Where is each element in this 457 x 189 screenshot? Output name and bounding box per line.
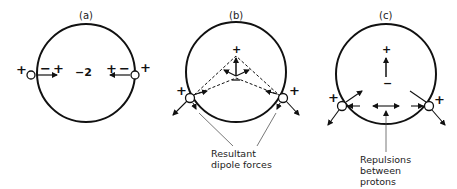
proton-charge-right-c: + xyxy=(434,93,445,106)
caption-c: Repulsions between protons xyxy=(360,154,411,187)
proton-charge-right-b: + xyxy=(289,84,300,97)
caption-c-line1: Repulsions xyxy=(360,154,411,165)
right-dipole-charges: +− xyxy=(106,62,132,75)
caption-c-line2: between xyxy=(360,165,411,176)
dipole-bottom-charge-c: − xyxy=(383,78,392,89)
left-dipole-charges: −+ xyxy=(40,62,66,75)
caption-c-line3: protons xyxy=(360,176,411,187)
proton-charge-left: + xyxy=(16,63,27,76)
proton-charge-left-b: + xyxy=(176,84,187,97)
dipole-top-charge-c: + xyxy=(382,44,391,55)
caption-b: Resultant dipole forces xyxy=(211,148,272,170)
center-charge: −2 xyxy=(75,67,92,78)
proton-charge-right: + xyxy=(140,61,151,74)
proton-charge-left-c: + xyxy=(328,91,339,104)
caption-b-line2: dipole forces xyxy=(211,159,272,170)
panel-b-diagram xyxy=(173,22,299,146)
dipole-top-charge-b: + xyxy=(232,44,241,55)
panel-c-label: (c) xyxy=(379,10,392,21)
caption-b-line1: Resultant xyxy=(211,148,272,159)
panel-b-label: (b) xyxy=(229,10,243,21)
panel-a-label: (a) xyxy=(79,10,93,21)
